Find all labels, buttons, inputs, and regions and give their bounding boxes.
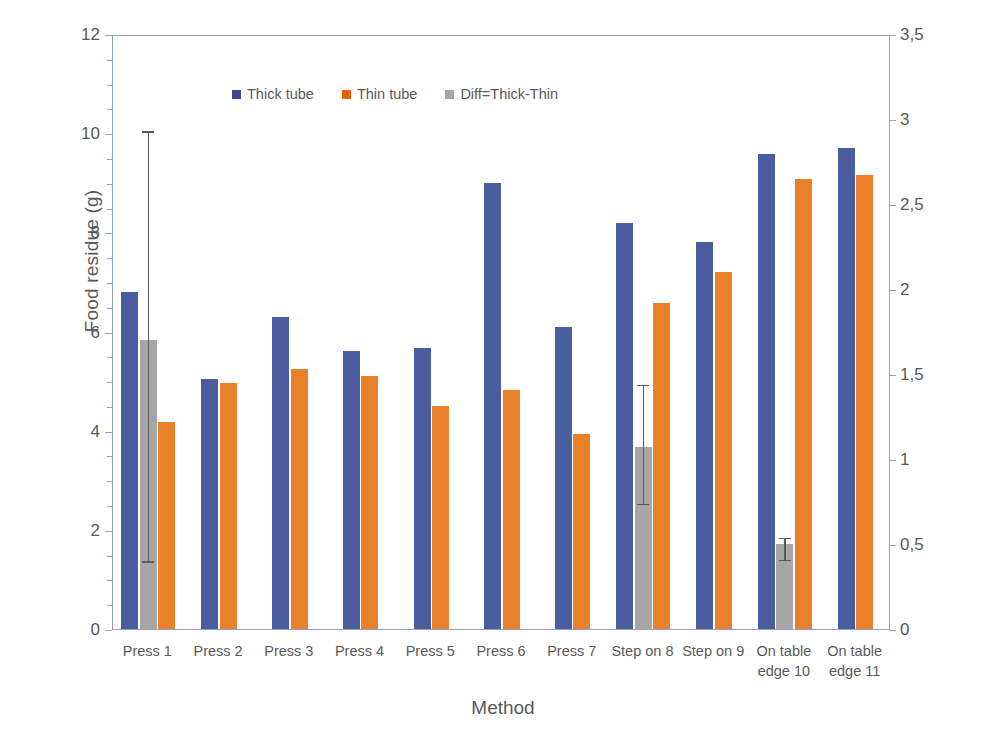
bars-layer (113, 36, 889, 629)
legend-label: Thin tube (357, 86, 417, 102)
secondary-y-tick-label: 2 (900, 280, 970, 300)
y-tick-label: 8 (40, 223, 100, 243)
bar-thin-tube (361, 376, 378, 629)
legend-item: Thin tube (342, 86, 417, 102)
secondary-y-tick-label: 1 (900, 450, 970, 470)
x-axis-label-line: On table (819, 641, 890, 661)
bar-thick-tube (696, 242, 713, 629)
x-axis-label: Press 4 (324, 641, 395, 661)
y-axis-title: Food residue (g) (81, 131, 103, 391)
bar-thick-tube (758, 154, 775, 629)
y-tick-label: 12 (40, 25, 100, 45)
error-bar-cap-top (779, 538, 791, 540)
x-axis-label-line: edge 10 (749, 661, 820, 681)
secondary-y-tick-label: 1,5 (900, 365, 970, 385)
x-axis-label: Press 3 (253, 641, 324, 661)
bar-thin-tube (503, 390, 520, 629)
legend-item: Diff=Thick-Thin (445, 86, 558, 102)
x-axis-label-line: Press 4 (324, 641, 395, 661)
bar-thin-tube (220, 383, 237, 629)
bar-thin-tube (432, 406, 449, 629)
x-axis-label-line: Press 6 (466, 641, 537, 661)
secondary-y-tick-label: 3,5 (900, 25, 970, 45)
secondary-y-tick-mark (889, 120, 896, 121)
x-axis-label: Press 7 (536, 641, 607, 661)
y-tick-mark (105, 333, 112, 334)
secondary-y-tick-label: 0 (900, 620, 970, 640)
error-bar-cap-bottom (779, 560, 791, 562)
error-bar-cap-top (142, 131, 154, 133)
bar-thin-tube (795, 179, 812, 629)
chart-container: Food residue (g) Difference Residue Thic… (0, 0, 1006, 731)
error-bar-cap-top (637, 385, 649, 387)
bar-thick-tube (616, 223, 633, 629)
x-axis-label: Press 5 (395, 641, 466, 661)
bar-thin-tube (715, 272, 732, 629)
y-tick-label: 4 (40, 422, 100, 442)
bar-thin-tube (291, 369, 308, 629)
x-axis-label-line: Press 3 (253, 641, 324, 661)
error-bar-cap-bottom (637, 504, 649, 506)
x-axis-label: Press 1 (112, 641, 183, 661)
legend-swatch-icon (342, 90, 351, 99)
x-axis-label: Press 6 (466, 641, 537, 661)
legend-swatch-icon (232, 90, 241, 99)
secondary-y-tick-mark (889, 630, 896, 631)
bar-thin-tube (856, 175, 873, 629)
x-axis-label: Press 2 (183, 641, 254, 661)
y-tick-label: 10 (40, 124, 100, 144)
bar-thin-tube (158, 422, 175, 629)
y-tick-mark (105, 630, 112, 631)
secondary-y-tick-mark (889, 460, 896, 461)
error-bar-cap-bottom (142, 561, 154, 563)
y-tick-mark (105, 35, 112, 36)
x-axis-label-line: Step on 9 (678, 641, 749, 661)
y-tick-mark (105, 432, 112, 433)
secondary-y-tick-mark (889, 35, 896, 36)
secondary-y-tick-mark (889, 375, 896, 376)
y-tick-label: 2 (40, 521, 100, 541)
x-axis-label-line: Press 2 (183, 641, 254, 661)
x-axis-label: On tableedge 10 (749, 641, 820, 681)
bar-thick-tube (484, 183, 501, 629)
bar-thick-tube (343, 351, 360, 629)
secondary-y-tick-label: 2,5 (900, 195, 970, 215)
bar-thick-tube (414, 348, 431, 629)
bar-thin-tube (653, 303, 670, 629)
x-axis-label: On tableedge 11 (819, 641, 890, 681)
bar-thick-tube (201, 379, 218, 629)
secondary-y-tick-label: 0,5 (900, 535, 970, 555)
secondary-y-tick-mark (889, 205, 896, 206)
secondary-y-tick-label: 3 (900, 110, 970, 130)
y-tick-mark (105, 531, 112, 532)
secondary-y-tick-mark (889, 545, 896, 546)
error-bar (148, 131, 150, 561)
bar-thin-tube (573, 434, 590, 629)
x-axis-label-line: Press 1 (112, 641, 183, 661)
error-bar (784, 538, 786, 560)
x-axis-label-line: Step on 8 (607, 641, 678, 661)
legend-item: Thick tube (232, 86, 314, 102)
legend-swatch-icon (445, 90, 454, 99)
error-bar (643, 385, 645, 504)
y-tick-mark (105, 134, 112, 135)
x-axis-label-line: Press 5 (395, 641, 466, 661)
legend-label: Diff=Thick-Thin (460, 86, 558, 102)
x-axis-label: Step on 9 (678, 641, 749, 661)
bar-thick-tube (272, 317, 289, 629)
y-tick-label: 0 (40, 620, 100, 640)
x-axis-title: Method (0, 697, 1006, 719)
x-axis-label: Step on 8 (607, 641, 678, 661)
x-axis-label-line: Press 7 (536, 641, 607, 661)
bar-thick-tube (838, 148, 855, 629)
legend-label: Thick tube (247, 86, 314, 102)
x-axis-label-line: On table (749, 641, 820, 661)
bar-thick-tube (555, 327, 572, 629)
plot-area (112, 35, 890, 630)
x-axis-label-line: edge 11 (819, 661, 890, 681)
secondary-y-tick-mark (889, 290, 896, 291)
y-tick-mark (105, 233, 112, 234)
y-tick-label: 6 (40, 323, 100, 343)
chart-legend: Thick tubeThin tubeDiff=Thick-Thin (232, 86, 558, 102)
bar-thick-tube (121, 292, 138, 629)
